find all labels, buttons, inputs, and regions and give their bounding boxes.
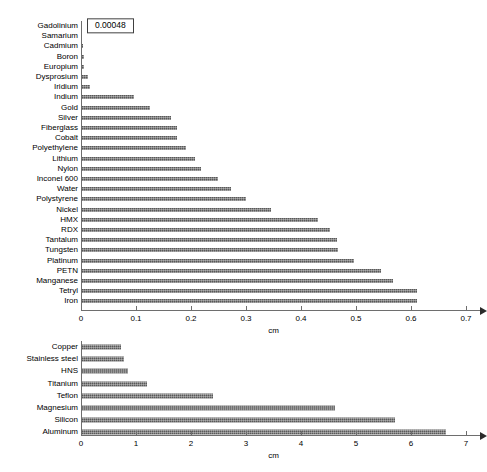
category-label: Nylon	[58, 165, 78, 173]
category-label: Tetryl	[59, 287, 78, 295]
category-label: Copper	[52, 343, 78, 351]
x-axis-tick	[246, 431, 247, 435]
category-label: HNS	[61, 367, 78, 375]
bar	[81, 228, 330, 232]
x-axis-tick-label: 0.4	[295, 314, 306, 323]
bar	[81, 106, 150, 110]
category-label: Cadmium	[44, 42, 78, 50]
category-label: Lithium	[52, 155, 78, 163]
bar	[81, 418, 395, 423]
x-axis-tick	[246, 306, 247, 310]
category-label: Nickel	[56, 206, 78, 214]
category-label: PETN	[57, 267, 78, 275]
x-axis-tick-label: 0	[79, 314, 83, 323]
bar	[81, 279, 393, 283]
top-chart-category-labels: GadoliniumSamariumCadmiumBoronEuropiumDy…	[0, 0, 78, 335]
bar	[81, 269, 381, 273]
category-label: Teflon	[57, 392, 78, 400]
category-label: HMX	[60, 216, 78, 224]
x-axis-tick	[356, 431, 357, 435]
x-axis-tick-label: 0.5	[350, 314, 361, 323]
x-axis-tick	[81, 306, 82, 310]
bar	[81, 85, 90, 89]
bar	[81, 116, 171, 120]
top-chart-plot-wrap: GadoliniumSamariumCadmiumBoronEuropiumDy…	[0, 0, 486, 335]
x-axis-tick-label: 0.1	[130, 314, 141, 323]
x-axis-arrow-icon	[480, 432, 487, 440]
x-axis-tick-label: 5	[354, 439, 358, 448]
x-axis-tick	[466, 306, 467, 310]
category-label: Titanium	[48, 380, 78, 388]
bar	[81, 381, 147, 386]
x-axis-tick	[301, 431, 302, 435]
category-label: Tantalum	[46, 236, 78, 244]
x-axis-tick-label: 7	[464, 439, 468, 448]
x-axis-tick-label: 2	[189, 439, 193, 448]
data-value-callout: 0.00048	[87, 18, 134, 33]
x-axis-tick	[136, 431, 137, 435]
x-axis-tick	[191, 306, 192, 310]
x-axis-tick-label: 1	[134, 439, 138, 448]
category-label: Europium	[44, 63, 78, 71]
y-axis-line	[81, 21, 82, 310]
bar	[81, 187, 231, 191]
category-label: Dysprosium	[36, 73, 78, 81]
top-bar-chart: GadoliniumSamariumCadmiumBoronEuropiumDy…	[0, 0, 486, 335]
category-label: Platinum	[47, 257, 78, 265]
x-axis-tick	[466, 431, 467, 435]
x-axis-tick-label: 0.6	[405, 314, 416, 323]
category-label: Samarium	[42, 32, 78, 40]
bar	[81, 248, 338, 252]
bar	[81, 393, 213, 398]
x-axis-line	[81, 435, 480, 436]
category-label: Polystyrene	[36, 195, 78, 203]
x-axis-tick-label: 3	[244, 439, 248, 448]
bar	[81, 345, 121, 350]
bar	[81, 238, 337, 242]
x-axis-tick-label: 0.7	[460, 314, 471, 323]
x-axis-line	[81, 310, 480, 311]
bar	[81, 218, 318, 222]
top-chart-plot-area: 00.10.20.30.40.50.60.7cm0.00048	[81, 0, 466, 335]
x-axis-tick	[356, 306, 357, 310]
x-axis-tick	[411, 306, 412, 310]
x-axis-tick	[411, 431, 412, 435]
bar	[81, 136, 177, 140]
bar	[81, 208, 271, 212]
y-axis-line	[81, 341, 82, 435]
x-axis-tick-label: 0	[79, 439, 83, 448]
bar	[81, 167, 201, 171]
bar	[81, 126, 177, 130]
x-axis-tick-label: 4	[299, 439, 303, 448]
category-label: Silicon	[54, 416, 78, 424]
category-label: Indium	[54, 93, 78, 101]
category-label: Polyethylene	[32, 144, 78, 152]
category-label: Stainless steel	[26, 355, 78, 363]
category-label: Magnesium	[37, 404, 78, 412]
x-axis-tick	[136, 306, 137, 310]
bar	[81, 197, 246, 201]
bar	[81, 146, 186, 150]
category-label: Manganese	[36, 277, 78, 285]
category-label: Fiberglass	[41, 124, 78, 132]
x-axis-title: cm	[268, 451, 279, 460]
x-axis-tick-label: 0.2	[185, 314, 196, 323]
category-label: RDX	[61, 226, 78, 234]
category-label: Gold	[61, 104, 78, 112]
category-label: Gadolinium	[38, 22, 78, 30]
category-label: Cobalt	[55, 134, 78, 142]
category-label: Boron	[57, 53, 78, 61]
x-axis-tick-label: 0.3	[240, 314, 251, 323]
bar	[81, 259, 354, 263]
category-label: Tungsten	[45, 246, 78, 254]
bar	[81, 369, 128, 374]
category-label: Iron	[64, 297, 78, 305]
category-label: Iridium	[54, 83, 78, 91]
x-axis-tick	[301, 306, 302, 310]
category-label: Inconel 600	[37, 175, 78, 183]
bar	[81, 299, 417, 303]
category-label: Aluminum	[42, 428, 78, 436]
bottom-chart-category-labels: CopperStainless steelHNSTitaniumTeflonMa…	[0, 335, 78, 472]
bottom-bar-chart: CopperStainless steelHNSTitaniumTeflonMa…	[0, 335, 486, 472]
bottom-chart-plot-wrap: CopperStainless steelHNSTitaniumTeflonMa…	[0, 335, 486, 472]
